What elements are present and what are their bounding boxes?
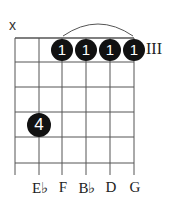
- chord-grid: [0, 0, 174, 205]
- string-note-label: D: [106, 179, 117, 196]
- finger-dot: 1: [51, 39, 73, 61]
- finger-dot: 1: [123, 39, 145, 61]
- finger-dot: 4: [27, 113, 51, 137]
- string-note-label: G: [130, 179, 141, 196]
- finger-dot: 1: [75, 39, 97, 61]
- fret-position-label: III: [146, 40, 162, 58]
- barre-arc: [63, 24, 133, 36]
- string-note-label: B♭: [78, 179, 95, 197]
- finger-dot: 1: [99, 39, 121, 61]
- string-note-label: F: [59, 179, 67, 196]
- string-note-label: E♭: [32, 179, 48, 197]
- muted-string-marker: x: [9, 17, 16, 33]
